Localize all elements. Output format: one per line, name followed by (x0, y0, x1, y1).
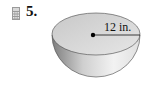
radius-label: 12 in. (104, 20, 131, 34)
center-point (91, 33, 95, 37)
hemisphere-figure: 12 in. (0, 0, 150, 85)
